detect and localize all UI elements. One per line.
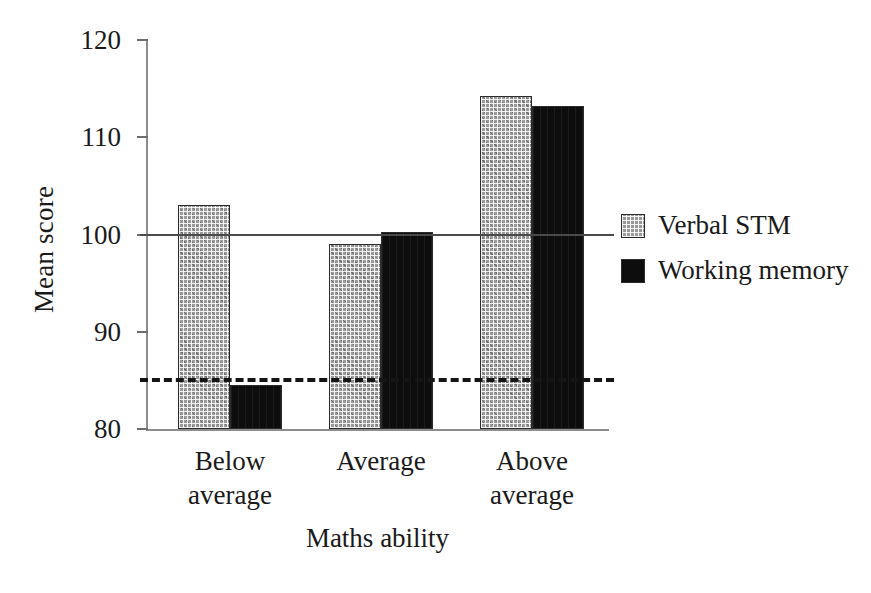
x-axis-title: Maths ability xyxy=(146,523,609,554)
category-label-line-1: Above xyxy=(496,446,568,476)
y-axis-tick-110: 110 xyxy=(137,136,148,138)
y-tick-label: 120 xyxy=(81,25,122,56)
bar-average-working-memory xyxy=(381,232,433,429)
bar-average-verbal-stm xyxy=(329,244,381,429)
y-tick-mark xyxy=(137,136,148,138)
reference-line-100 xyxy=(140,234,614,236)
y-tick-label: 110 xyxy=(82,122,122,153)
category-label-line-2: average xyxy=(440,479,624,513)
y-tick-label: 100 xyxy=(81,219,122,250)
y-tick-label: 80 xyxy=(94,414,121,445)
y-tick-mark xyxy=(137,428,148,430)
y-axis-tick-80: 80 xyxy=(137,428,148,430)
y-tick-mark xyxy=(137,331,148,333)
category-label-line-2: average xyxy=(138,479,322,513)
legend-swatch-icon xyxy=(621,214,645,238)
plot-area: 1201101009080 xyxy=(146,40,609,431)
bar-chart-figure: Mean score 1201101009080 BelowaverageAve… xyxy=(0,0,871,593)
category-label-line-1: Average xyxy=(336,446,425,476)
y-axis-tick-90: 90 xyxy=(137,331,148,333)
legend-swatch-icon xyxy=(621,259,645,283)
legend-item-working-memory: Working memory xyxy=(621,248,849,293)
y-tick-label: 90 xyxy=(94,316,121,347)
y-axis-line xyxy=(146,40,148,431)
y-axis-title: Mean score xyxy=(29,140,60,360)
y-tick-mark xyxy=(137,39,148,41)
bar-below-average-working-memory xyxy=(230,385,282,429)
x-axis-line xyxy=(146,429,609,431)
legend-label: Verbal STM xyxy=(658,210,791,241)
category-label-line-1: Below xyxy=(195,446,266,476)
chart-legend: Verbal STMWorking memory xyxy=(621,203,849,293)
reference-line-85 xyxy=(140,378,614,382)
y-axis-tick-120: 120 xyxy=(137,39,148,41)
legend-item-verbal-stm: Verbal STM xyxy=(621,203,849,248)
x-category-label-3: Aboveaverage xyxy=(440,445,624,513)
legend-label: Working memory xyxy=(658,255,849,286)
bar-below-average-verbal-stm xyxy=(178,205,230,429)
